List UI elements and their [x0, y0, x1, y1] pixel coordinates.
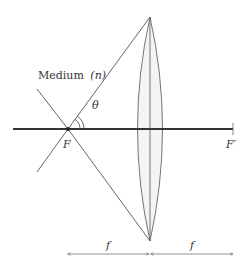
angle-arc-inner: [75, 119, 80, 129]
distance-left-label: f: [105, 239, 112, 252]
focal-point-dot: [66, 127, 70, 131]
medium-label: Medium (n): [38, 69, 106, 82]
lens-diagram: Medium (n) θ F F′ f f: [0, 0, 249, 267]
focal-point-label: F: [62, 138, 71, 151]
angle-label: θ: [92, 99, 99, 112]
distance-right-label: f: [189, 239, 196, 252]
focal-point-prime-label: F′: [225, 138, 237, 151]
ray-left-upper: [37, 89, 68, 129]
